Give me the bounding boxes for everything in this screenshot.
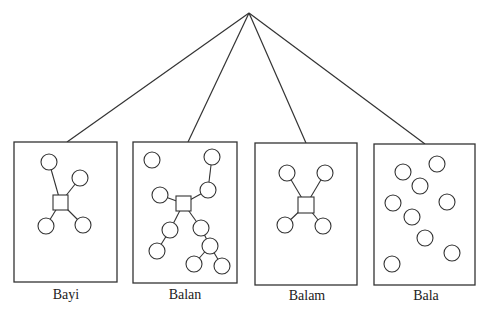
circle-node [279, 165, 295, 181]
panel-box-balam [255, 143, 357, 285]
square-node [298, 197, 314, 213]
circle-node [444, 245, 460, 261]
circle-node [317, 165, 333, 181]
circle-node [384, 256, 400, 272]
connector-line-bayi [67, 13, 249, 142]
circle-node [144, 152, 160, 168]
circle-node [200, 182, 216, 198]
connector-line-balam [249, 13, 306, 143]
panel-label-balan: Balan [133, 287, 237, 303]
circle-node [202, 238, 218, 254]
circle-node [186, 256, 202, 272]
square-node [176, 196, 191, 211]
panel-label-balam: Balam [255, 288, 359, 304]
circle-node [162, 222, 178, 238]
circle-node [72, 170, 88, 186]
circle-node [38, 218, 54, 234]
circle-node [193, 220, 209, 236]
panel-label-bayi: Bayi [14, 287, 118, 303]
circle-node [214, 258, 230, 274]
circle-node [204, 149, 220, 165]
panel-label-bala: Bala [374, 288, 478, 304]
circle-node [395, 164, 411, 180]
circle-node [412, 178, 428, 194]
circle-node [41, 154, 57, 170]
square-node [53, 195, 68, 210]
diagram-canvas [0, 0, 487, 314]
circle-node [315, 218, 331, 234]
panel-box-bayi [14, 142, 117, 282]
circle-node [277, 217, 293, 233]
circle-node [439, 194, 455, 210]
circle-node [385, 195, 401, 211]
circle-node [75, 217, 91, 233]
connector-line-bala [249, 13, 425, 144]
circle-node [152, 187, 168, 203]
connector-line-balan [188, 13, 249, 142]
circle-node [429, 156, 445, 172]
circle-node [149, 243, 165, 259]
circle-node [417, 230, 433, 246]
circle-node [404, 209, 420, 225]
